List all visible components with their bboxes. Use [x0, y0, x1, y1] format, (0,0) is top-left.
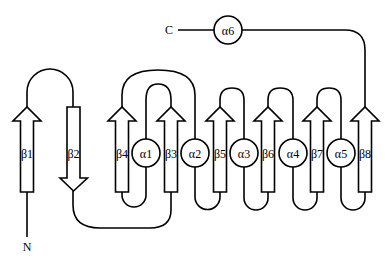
- strand-label: β7: [311, 147, 323, 161]
- strand-label: β3: [165, 147, 177, 161]
- strand-label: β5: [214, 147, 226, 161]
- loop-b4-a2: [122, 70, 195, 139]
- loop-b8-a6: [242, 30, 365, 107]
- strand-label: β2: [67, 147, 79, 161]
- helix-label: α2: [189, 147, 201, 161]
- helix-label: α6: [222, 24, 234, 38]
- strand-label: β6: [262, 147, 274, 161]
- helix-a5: α5: [327, 139, 355, 167]
- helix-a6: α6: [214, 16, 242, 44]
- strand-label: β8: [359, 147, 371, 161]
- strand-label: β1: [21, 147, 33, 161]
- helix-a4: α4: [279, 139, 307, 167]
- loop-b1-b2: [27, 69, 73, 107]
- helix-a2: α2: [181, 139, 209, 167]
- c-terminus-label: C: [165, 23, 173, 37]
- n-terminus-label: N: [23, 240, 32, 254]
- strand-b2: β2: [60, 107, 88, 191]
- helix-a1: α1: [132, 139, 160, 167]
- helix-label: α1: [140, 147, 152, 161]
- strand-b1: β1: [13, 107, 41, 192]
- strand-label: β4: [116, 147, 128, 161]
- helix-label: α5: [335, 147, 347, 161]
- helix-a3: α3: [230, 139, 258, 167]
- topology-diagram: β1 β2 β4 β3 β5 β6 β7: [0, 0, 392, 265]
- helix-label: α3: [238, 147, 250, 161]
- helix-label: α4: [287, 147, 299, 161]
